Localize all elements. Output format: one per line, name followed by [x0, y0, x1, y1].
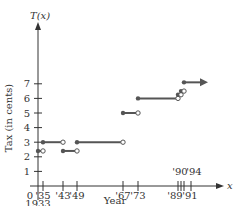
closed-endpoint — [75, 140, 79, 144]
x-tick-label: '67 — [115, 190, 130, 201]
step-function-chart: T(x) x Year Tax (in cents) 1234567 01933… — [0, 0, 233, 206]
x-axis — [30, 183, 224, 189]
x-tick-label: '35 — [35, 190, 50, 201]
x-tick-label: '49 — [69, 190, 84, 201]
y-tick-label: 2 — [24, 151, 30, 162]
y-axis-name: T(x) — [30, 10, 50, 21]
closed-endpoint — [182, 80, 186, 84]
open-endpoint — [136, 111, 140, 115]
open-endpoint — [61, 140, 65, 144]
x-tick-label: '73 — [130, 190, 145, 201]
y-axis-arrow-icon — [35, 22, 41, 30]
y-tick-label: 3 — [24, 137, 30, 148]
closed-endpoint — [121, 111, 125, 115]
closed-endpoint — [41, 140, 45, 144]
closed-endpoint — [136, 96, 140, 100]
open-endpoint — [182, 89, 186, 93]
x-tick-label: '89 — [167, 190, 182, 201]
open-endpoint — [75, 149, 79, 153]
y-axis-title: Tax (in cents) — [3, 84, 14, 153]
y-tick-label: 5 — [24, 108, 30, 119]
step-segments — [36, 78, 208, 153]
closed-endpoint — [61, 149, 65, 153]
x-tick-label: '94 — [186, 166, 201, 177]
x-axis-arrow-icon — [216, 183, 224, 189]
y-tick-label: 7 — [24, 78, 30, 89]
y-axis — [35, 22, 41, 200]
y-tick-label: 6 — [24, 93, 30, 104]
x-tick-label: '91 — [182, 190, 197, 201]
y-tick-label: 4 — [24, 122, 30, 133]
closed-endpoint — [36, 149, 40, 153]
continuation-arrow-icon — [200, 78, 208, 86]
open-endpoint — [121, 140, 125, 144]
y-ticks: 1234567 — [24, 78, 42, 177]
x-axis-name: x — [227, 180, 233, 191]
y-tick-label: 1 — [24, 166, 30, 177]
open-endpoint — [41, 149, 45, 153]
